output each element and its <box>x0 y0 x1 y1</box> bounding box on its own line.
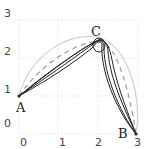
y-tick-0: 0 <box>4 117 11 130</box>
point-b-label: B <box>118 126 128 141</box>
y-tick-2: 2 <box>4 45 11 58</box>
x-tick-1: 1 <box>59 136 66 149</box>
y-tick-3: 3 <box>4 7 11 20</box>
point-a-label: A <box>15 100 26 115</box>
point-a-marker <box>17 94 20 97</box>
black-paths <box>19 40 136 134</box>
y-tick-1: 1 <box>4 83 11 96</box>
x-tick-3: 3 <box>134 136 141 149</box>
point-c-label: C <box>91 24 101 39</box>
outer-arc-curve <box>19 37 138 134</box>
x-tick-2: 2 <box>95 136 102 149</box>
diagram-canvas: A C B 3 2 1 0 0 1 2 3 <box>0 0 146 149</box>
x-tick-0: 0 <box>20 136 27 149</box>
